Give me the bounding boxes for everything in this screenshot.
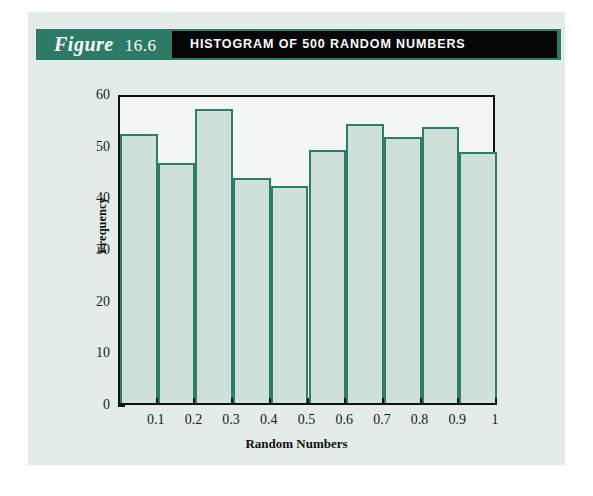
x-axis-title: Random Numbers	[0, 436, 593, 452]
histogram-bar	[309, 150, 347, 403]
y-tick-label: 0	[70, 398, 110, 412]
y-tick-label: 30	[70, 243, 110, 257]
figure-page: Figure16.6 HISTOGRAM OF 500 RANDOM NUMBE…	[0, 0, 593, 496]
histogram-bar	[459, 152, 497, 403]
x-tick-label: 0.9	[437, 413, 477, 427]
x-tick-label: 0.4	[249, 413, 289, 427]
x-tick-mark	[344, 398, 346, 405]
x-tick-label: 0.8	[400, 413, 440, 427]
y-tick-label: 20	[70, 295, 110, 309]
x-tick-mark	[420, 398, 422, 405]
y-tick-label: 10	[70, 346, 110, 360]
x-tick-mark	[307, 398, 309, 405]
x-tick-label: 0.7	[362, 413, 402, 427]
histogram-bar	[195, 109, 233, 404]
plot-frame	[118, 95, 495, 405]
y-tick-label: 50	[70, 140, 110, 154]
x-tick-label: 0.3	[211, 413, 251, 427]
x-tick-label: 1	[475, 413, 515, 427]
bar-series	[120, 97, 493, 403]
x-tick-label: 0.5	[287, 413, 327, 427]
x-tick-mark	[156, 398, 158, 405]
x-tick-mark	[495, 398, 497, 405]
x-tick-label: 0.6	[324, 413, 364, 427]
histogram-bar	[422, 127, 460, 403]
histogram-bar	[120, 134, 158, 403]
y-tick-label: 60	[70, 88, 110, 102]
histogram-bar	[346, 124, 384, 403]
x-tick-mark	[193, 398, 195, 405]
x-tick-label: 0.1	[136, 413, 176, 427]
histogram-bar	[271, 186, 309, 403]
histogram-bar	[158, 163, 196, 403]
histogram-bar	[233, 178, 271, 403]
histogram-chart: Frequency 0102030405060 0.10.20.30.40.50…	[0, 0, 593, 496]
x-tick-mark	[382, 398, 384, 405]
x-tick-mark	[231, 398, 233, 405]
x-tick-mark	[457, 398, 459, 405]
y-tick-label: 40	[70, 191, 110, 205]
x-tick-label: 0.2	[173, 413, 213, 427]
histogram-bar	[384, 137, 422, 403]
x-tick-mark	[269, 398, 271, 405]
y-tick-mark	[118, 405, 125, 407]
